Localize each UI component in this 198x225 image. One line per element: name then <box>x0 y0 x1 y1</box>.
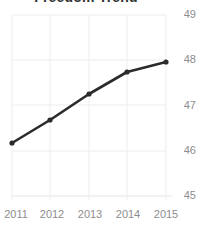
data-point-2013 <box>86 91 91 96</box>
y-axis-tick-label-46: 46 <box>184 145 196 156</box>
x-axis-tick-label-2015: 2015 <box>154 209 178 220</box>
x-axis-tick-label-2014: 2014 <box>116 209 140 220</box>
y-axis-tick-label-45: 45 <box>184 190 196 201</box>
data-point-2014 <box>124 69 129 74</box>
x-axis-tick-label-2011: 2011 <box>4 209 28 220</box>
data-point-2011 <box>9 140 14 145</box>
x-axis-tick-label-2013: 2013 <box>78 209 102 220</box>
data-point-2012 <box>47 117 52 122</box>
horizontal-gridlines <box>12 15 172 196</box>
data-point-2015 <box>163 59 168 64</box>
line-chart-plot <box>0 0 198 225</box>
chart-container: Freedom Trend 49 48 47 46 45 2011 <box>0 0 198 225</box>
x-axis-tick-label-2012: 2012 <box>40 209 64 220</box>
vertical-gridlines <box>12 15 166 200</box>
y-axis-tick-label-47: 47 <box>184 100 196 111</box>
y-axis-tick-label-48: 48 <box>184 54 196 65</box>
y-axis-tick-label-49: 49 <box>184 9 196 20</box>
